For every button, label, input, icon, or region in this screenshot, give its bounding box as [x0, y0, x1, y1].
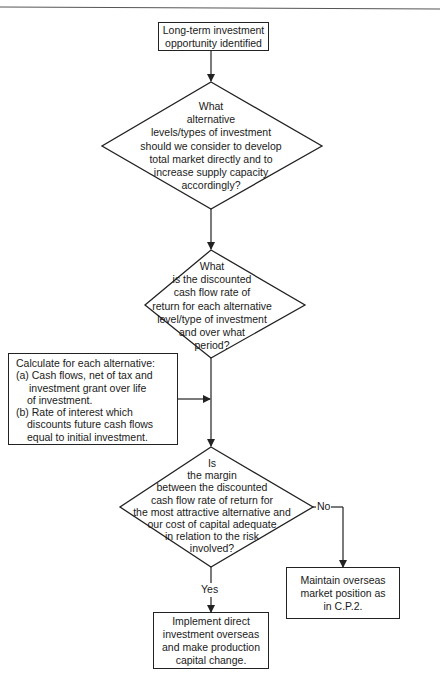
decision3-line: the margin	[112, 469, 312, 481]
outcome-no-line: market position as	[300, 587, 385, 600]
decision1-line: levels/types of investment	[120, 126, 302, 139]
outcome-yes-line: and make production	[162, 641, 260, 654]
calc-b-line: discounts future cash flows	[16, 418, 173, 430]
page-top-rule	[0, 7, 440, 9]
outcome-yes-line: Implement direct	[172, 615, 250, 628]
decision1-line: accordingly?	[120, 179, 302, 192]
yes-branch-label: Yes	[200, 583, 219, 595]
decision1-line: increase supply capacity	[120, 166, 302, 179]
start-line-1: Long-term investment	[163, 24, 265, 37]
decision3-line: involved?	[112, 542, 312, 554]
decision3-line: our cost of capital adequate	[112, 518, 312, 530]
decision1-line: What	[120, 100, 302, 113]
calc-marker-a: (a)	[16, 369, 29, 381]
start-box: Long-term investment opportunity identif…	[158, 22, 269, 51]
decision2-line: return for each alternative	[148, 300, 276, 313]
decision1-line: should we consider to develop	[120, 140, 302, 153]
decision1-line: alternative	[120, 113, 302, 126]
outcome-yes-line: investment overseas	[163, 628, 259, 641]
outcome-no-line: in C.P.2.	[324, 600, 363, 613]
decision3-line: the most attractive alternative and	[112, 506, 312, 518]
decision2-line: cash flow rate of	[148, 286, 276, 299]
decision3-line: between the discounted	[112, 481, 312, 493]
calc-marker-b: (b)	[16, 406, 29, 418]
no-branch-label: No	[316, 500, 331, 512]
decision3-text: Is the margin between the discounted cas…	[112, 457, 312, 555]
outcome-no-line: Maintain overseas	[300, 574, 385, 587]
calc-item-a: (a) Cash flows, net of tax and	[16, 369, 173, 381]
calc-b-line: equal to initial investment.	[16, 431, 173, 443]
decision1-line: total market directly and to	[120, 153, 302, 166]
calc-a-line: investment grant over life	[16, 382, 173, 394]
decision2-text: What is the discounted cash flow rate of…	[148, 260, 276, 352]
decision3-line: Is	[112, 457, 312, 469]
calc-item-b: (b) Rate of interest which	[16, 406, 173, 418]
outcome-implement-box: Implement direct investment overseas and…	[153, 612, 269, 669]
outcome-yes-line: capital change.	[176, 654, 247, 667]
decision2-line: level/type of investment	[148, 313, 276, 326]
decision2-line: period?	[148, 339, 276, 352]
calc-title: Calculate for each alternative:	[16, 357, 173, 369]
calculation-note-box: Calculate for each alternative: (a) Cash…	[8, 353, 178, 445]
outcome-maintain-box: Maintain overseas market position as in …	[286, 567, 400, 619]
decision3-line: cash flow rate of return for	[112, 494, 312, 506]
calc-a-line: Cash flows, net of tax and	[32, 369, 153, 381]
decision1-text: What alternative levels/types of investm…	[120, 100, 302, 192]
calc-b-line: Rate of interest which	[32, 406, 133, 418]
calc-a-line: of investment.	[16, 394, 173, 406]
start-line-2: opportunity identified	[165, 37, 262, 50]
decision2-line: and over what	[148, 326, 276, 339]
decision3-line: in relation to the risk	[112, 530, 312, 542]
decision2-line: What	[148, 260, 276, 273]
decision2-line: is the discounted	[148, 273, 276, 286]
